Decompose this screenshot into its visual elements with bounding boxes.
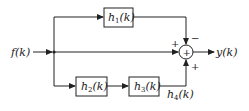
top-branch-line <box>54 17 103 52</box>
block-h2: h2(k) <box>76 77 108 96</box>
block-diagram: f(k) h1(k) h2(k) h3(k) h4(k) + + − + y(k… <box>0 0 249 111</box>
svg-text:h3(k): h3(k) <box>134 80 161 94</box>
output-label: y(k) <box>215 46 237 59</box>
sign-top: − <box>191 33 199 44</box>
h3-to-summer-line <box>159 60 186 86</box>
h4-label: h4(k) <box>167 88 194 102</box>
summing-junction: + <box>179 45 193 59</box>
input-label: f(k) <box>10 46 30 59</box>
svg-text:+: + <box>183 47 191 58</box>
sign-left: + <box>171 38 179 49</box>
block-h3: h3(k) <box>129 77 161 96</box>
svg-text:h2(k): h2(k) <box>81 80 108 94</box>
diagram-svg: f(k) h1(k) h2(k) h3(k) h4(k) + + − + y(k… <box>0 0 249 111</box>
sign-bottom: + <box>191 61 199 72</box>
svg-text:h1(k): h1(k) <box>108 11 135 25</box>
block-h1: h1(k) <box>104 8 135 27</box>
bottom-branch-line <box>54 52 75 86</box>
